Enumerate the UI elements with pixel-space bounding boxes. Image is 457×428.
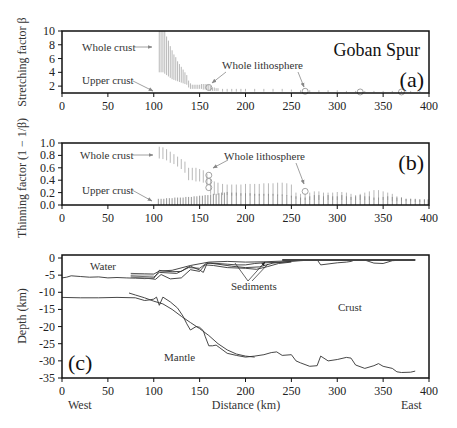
panel-a-ylabel: Stretching factor β <box>15 17 29 106</box>
x-tick-label: 350 <box>374 99 392 113</box>
y-tick-label: -15 <box>39 302 55 316</box>
y-tick-label: 0.8 <box>40 148 55 162</box>
annot-b-whole-lithosphere: Whole lithosphere <box>224 150 305 162</box>
x-tick-label: 400 <box>420 384 438 398</box>
panel-b-ylabel: Thinning factor (1 − 1/β) <box>15 118 29 238</box>
arrow-a-lith-1 <box>212 72 226 83</box>
arrow-a-lith-2 <box>298 72 304 87</box>
annot-water: Water <box>90 260 116 272</box>
x-tick-label: 250 <box>282 384 300 398</box>
annot-mantle: Mantle <box>164 351 195 363</box>
y-tick-label: 2 <box>49 79 55 93</box>
arrow-b-upper-crust <box>132 190 152 201</box>
x-tick-label: 150 <box>191 211 209 225</box>
panel-a-label: (a) <box>400 67 424 92</box>
x-tick-label: 100 <box>145 99 163 113</box>
x-tick-label: 300 <box>328 211 346 225</box>
x-tick-label: 250 <box>282 99 300 113</box>
annot-b-upper-crust: Upper crust <box>82 184 134 196</box>
arrow-sediments-1 <box>248 262 265 281</box>
y-tick-label: -20 <box>39 320 55 334</box>
y-tick-label: -5 <box>45 268 55 282</box>
x-tick-label: 300 <box>328 99 346 113</box>
y-tick-label: 0 <box>49 251 55 265</box>
sediment-block <box>131 273 154 278</box>
moho-observed--line <box>62 297 415 372</box>
x-tick-label: 0 <box>59 211 65 225</box>
x-tick-label: 50 <box>102 384 114 398</box>
x-tick-label: 350 <box>374 384 392 398</box>
panel-c: 0-5-10-15-20-25-30-35 050100150200250300… <box>15 251 438 412</box>
x-tick-label: 0 <box>59 384 65 398</box>
label-east: East <box>401 398 422 412</box>
annot-sediments: Sediments <box>231 280 277 292</box>
y-tick-label: 0.2 <box>40 186 55 200</box>
moho-model--line <box>129 293 255 357</box>
x-tick-label: 400 <box>420 211 438 225</box>
x-tick-label: 150 <box>191 384 209 398</box>
x-tick-label: 200 <box>237 99 255 113</box>
x-tick-label: 400 <box>420 99 438 113</box>
panel-a-x-ticks: 050100150200250300350400 <box>59 93 438 113</box>
x-tick-label: 300 <box>328 384 346 398</box>
y-tick-label: 0.6 <box>40 161 55 175</box>
panel-b-x-ticks: 050100150200250300350400 <box>59 205 438 225</box>
lithosphere-circle <box>357 89 363 95</box>
panel-b-label: (b) <box>398 150 424 175</box>
label-west: West <box>68 398 92 412</box>
y-tick-label: 0.0 <box>40 198 55 212</box>
y-tick-label: -10 <box>39 285 55 299</box>
panel-c-y-ticks: 0-5-10-15-20-25-30-35 <box>39 251 62 385</box>
x-tick-label: 50 <box>102 211 114 225</box>
panel-b-y-ticks: 0.00.20.40.60.81.0 <box>40 136 62 212</box>
arrow-a-upper-crust <box>133 81 153 91</box>
annot-b-whole-crust: Whole crust <box>80 149 133 161</box>
panel-c-frame <box>62 255 429 378</box>
x-tick-label: 250 <box>282 211 300 225</box>
panel-b: 0.00.20.40.60.81.0 050100150200250300350… <box>15 118 438 238</box>
y-tick-label: 0.4 <box>40 173 55 187</box>
annot-a-upper-crust: Upper crust <box>82 74 134 86</box>
goban-spur-figure: 246810 050100150200250300350400 Goban Sp… <box>0 0 457 428</box>
y-tick-label: -30 <box>39 354 55 368</box>
depth-profiles <box>62 260 415 373</box>
y-tick-label: -35 <box>39 371 55 385</box>
panel-a: 246810 050100150200250300350400 Goban Sp… <box>15 17 438 113</box>
x-tick-label: 200 <box>237 384 255 398</box>
whole-lithosphere-markers <box>206 172 308 194</box>
y-tick-label: 1.0 <box>40 136 55 150</box>
x-tick-label: 350 <box>374 211 392 225</box>
panel-c-x-ticks: 050100150200250300350400 <box>59 378 438 398</box>
y-tick-label: 6 <box>49 52 55 66</box>
x-tick-label: 100 <box>145 211 163 225</box>
arrow-b-lith-1 <box>213 160 228 168</box>
panel-c-xlabel: Distance (km) <box>212 398 280 412</box>
chart-title: Goban Spur <box>334 40 421 60</box>
x-tick-label: 100 <box>145 384 163 398</box>
lithosphere-circle <box>302 188 308 194</box>
y-tick-label: 4 <box>49 65 55 79</box>
sediment-layer-1-line <box>131 261 292 277</box>
y-tick-label: 10 <box>43 24 55 38</box>
arrow-sediments-2 <box>235 263 248 281</box>
arrow-b-lith-2 <box>296 163 304 184</box>
panel-a-y-ticks: 246810 <box>43 24 62 93</box>
x-tick-label: 200 <box>237 211 255 225</box>
annot-a-whole-lithosphere: Whole lithosphere <box>222 59 303 71</box>
panel-c-ylabel: Depth (km) <box>15 288 29 344</box>
panel-c-label: (c) <box>68 350 92 375</box>
x-tick-label: 150 <box>191 99 209 113</box>
x-tick-label: 50 <box>102 99 114 113</box>
y-tick-label: 8 <box>49 38 55 52</box>
annot-a-whole-crust: Whole crust <box>82 41 135 53</box>
annot-crust: Crust <box>338 301 362 313</box>
x-tick-label: 0 <box>59 99 65 113</box>
y-tick-label: -25 <box>39 337 55 351</box>
